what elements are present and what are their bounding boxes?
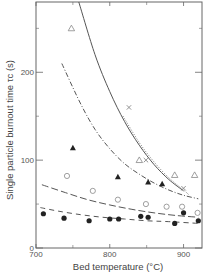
filled-circle-marker (172, 221, 177, 226)
filled-triangle-marker (159, 181, 165, 186)
open-circle-marker (195, 210, 200, 215)
y-tick-label: 200 (21, 68, 35, 77)
y-axis-title: Single particle burnout time τc (s) (4, 60, 15, 200)
x-tick-label: 800 (103, 250, 117, 259)
fit-curves (40, 2, 198, 223)
open-circle-marker (179, 204, 184, 209)
filled-circle-marker (196, 218, 201, 223)
x-axis-title: Bed temperature (°C) (73, 261, 163, 272)
filled-circle-marker (146, 215, 151, 220)
solid-curve (79, 2, 184, 191)
filled-circle-marker (116, 216, 121, 221)
open-triangle-marker (191, 172, 197, 178)
cross-marker (127, 105, 131, 109)
open-triangle-marker (136, 157, 142, 163)
filled-circle-marker (181, 210, 186, 215)
open-circle-marker (90, 188, 95, 193)
open-triangle-marker (68, 25, 74, 31)
y-tick-label: 100 (21, 156, 35, 165)
filled-triangle-marker (70, 145, 76, 150)
x-tick-label: 900 (177, 250, 191, 259)
filled-circle-marker (138, 214, 143, 219)
open-triangle-marker (172, 172, 178, 178)
dotted-curve (123, 116, 189, 195)
y-tick-label: 0 (30, 244, 35, 253)
filled-circle-marker (87, 218, 92, 223)
filled-triangle-marker (115, 174, 121, 179)
filled-triangle-marker (145, 179, 151, 184)
open-circle-marker (143, 201, 148, 206)
open-circle-marker (64, 173, 69, 178)
filled-circle-marker (41, 211, 46, 216)
open-circle-marker (115, 197, 120, 202)
burnout-time-chart: 7008009000100200 Single particle burnout… (0, 0, 204, 274)
open-circle-marker (164, 204, 169, 209)
filled-circle-marker (107, 216, 112, 221)
cross-marker (144, 158, 148, 162)
filled-circle-marker (61, 216, 66, 221)
data-markers (41, 25, 201, 226)
